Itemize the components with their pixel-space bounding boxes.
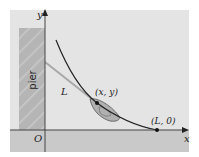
pier-label: pier (27, 69, 38, 89)
boat-point (95, 101, 99, 105)
x-axis-label: x (184, 133, 190, 144)
tractrix-pier-diagram: pier y x O L (x, y) (L, 0) (0, 0, 199, 157)
end-point (155, 128, 159, 132)
y-axis-label: y (36, 9, 43, 20)
end-point-label: (L, 0) (151, 116, 176, 126)
origin-label: O (34, 133, 42, 144)
rope-length-label: L (60, 86, 68, 97)
boat-point-label: (x, y) (95, 87, 118, 97)
